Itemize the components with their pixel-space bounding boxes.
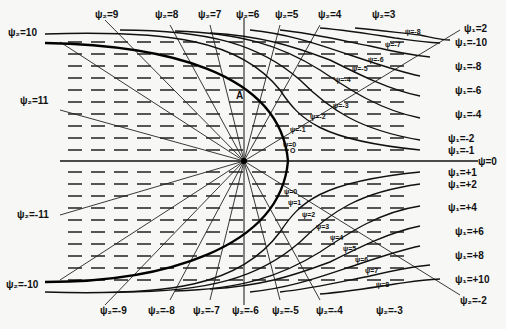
- label-psi2-7: ψ₂=7: [198, 10, 221, 20]
- streamline: [175, 31, 420, 118]
- source-point: [241, 158, 247, 164]
- label-psi-6: ψ=6: [355, 255, 368, 265]
- label-psi-neg1: ψ=-1: [290, 125, 306, 135]
- label-psi2-5: ψ₂=5: [275, 10, 298, 20]
- label-psi-neg8: ψ=-8: [405, 27, 421, 37]
- label-psi2-10: ψ₂=10: [8, 28, 37, 38]
- diagram-canvas: [0, 0, 506, 329]
- label-psi-0-lower: ψ=0: [284, 187, 297, 197]
- label-psi2-neg7: ψ₂=-7: [193, 306, 220, 316]
- label-psi-4: ψ=4: [330, 233, 343, 243]
- origin-label: O: [290, 146, 295, 156]
- flow-diagram: ψ₂=10 ψ₂=9 ψ₂=8 ψ₂=7 ψ₂=6 ψ₂=5 ψ₂=4 ψ₂=3…: [0, 0, 506, 329]
- label-psi1-pos1: ψ₁=+1: [448, 168, 477, 178]
- boundary-curve: [45, 43, 288, 282]
- label-psi-1: ψ=1: [288, 198, 301, 208]
- label-psi-5: ψ=5: [343, 244, 356, 254]
- label-psi-neg5: ψ=-5: [352, 64, 368, 74]
- label-psi-2: ψ=2: [302, 210, 315, 220]
- label-psi1-2: ψ₁=2: [464, 24, 487, 34]
- label-psi1-pos2: ψ₁=+2: [448, 180, 477, 190]
- label-psi1-pos8: ψ₁=+8: [455, 251, 484, 261]
- streamline: [250, 246, 420, 292]
- label-psi2-9: ψ₂=9: [95, 10, 118, 20]
- streamline: [250, 30, 420, 76]
- label-psi1-neg1: ψ₁=-1: [448, 146, 474, 156]
- radial-lines: [60, 20, 460, 305]
- label-psi-neg2: ψ=-2: [310, 112, 326, 122]
- streamline: [45, 33, 420, 150]
- label-psi2-neg3: ψ₂=-3: [376, 306, 403, 316]
- label-psi1-neg6: ψ₁=-6: [455, 86, 481, 96]
- label-psi-neg7: ψ=-7: [385, 40, 401, 50]
- label-psi2-neg10: ψ₂=-10: [6, 280, 38, 290]
- label-psi-neg4: ψ=-4: [335, 75, 351, 85]
- label-psi-neg3: ψ=-3: [333, 101, 349, 111]
- label-psi1-pos4: ψ₁=+4: [448, 203, 477, 213]
- label-psi-7: ψ=7: [365, 266, 378, 276]
- label-psi1-neg8: ψ₁=-8: [455, 62, 481, 72]
- label-psi2-neg4: ψ₂=-4: [316, 306, 343, 316]
- label-psi1-neg2: ψ₁=-2: [448, 134, 474, 144]
- label-psi-0: ψ=0: [478, 157, 497, 167]
- label-psi-3: ψ=3: [316, 222, 329, 232]
- label-psi1-pos10: ψ₁=+10: [455, 275, 489, 285]
- label-psi2-neg2: ψ₂=-2: [460, 296, 487, 306]
- label-psi2-4: ψ₂=4: [318, 10, 341, 20]
- label-psi1-neg4: ψ₁=-4: [455, 110, 481, 120]
- label-psi2-neg5: ψ₂=-5: [272, 306, 299, 316]
- label-psi2-neg8: ψ₂=-8: [148, 306, 175, 316]
- label-psi2-neg11: ψ₂=-11: [17, 210, 49, 220]
- label-psi2-neg9: ψ₂=-9: [100, 306, 127, 316]
- label-psi2-11: ψ₂=11: [20, 96, 48, 106]
- label-psi2-neg6: ψ₂=-6: [232, 306, 259, 316]
- point-a-label: A: [236, 91, 243, 101]
- label-psi2-8: ψ₂=8: [155, 10, 178, 20]
- label-psi2-6: ψ₂=6: [236, 10, 259, 20]
- label-psi2-3: ψ₂=3: [372, 10, 395, 20]
- label-psi-neg6: ψ=-6: [368, 55, 384, 65]
- label-psi1-neg10: ψ₁=-10: [455, 38, 487, 48]
- streamline: [280, 265, 430, 292]
- label-psi-8: ψ=8: [376, 280, 389, 290]
- label-psi1-pos6: ψ₁=+6: [455, 227, 484, 237]
